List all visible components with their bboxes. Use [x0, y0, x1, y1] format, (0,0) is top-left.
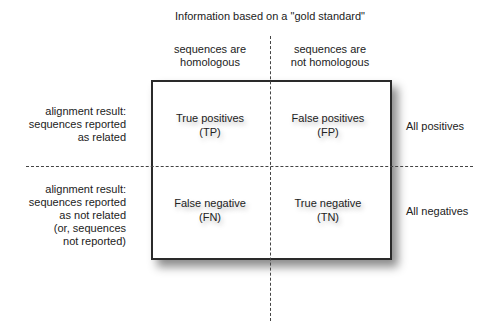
row-label-line: as not related	[0, 209, 126, 222]
row-label-line: not reported)	[0, 235, 126, 248]
column-header-homologous: sequences are homologous	[150, 43, 270, 69]
cell-false-negative: False negative (FN)	[155, 196, 265, 224]
row-label-line: sequences reported	[0, 196, 126, 209]
cell-label: False positives	[273, 111, 383, 125]
horizontal-dashed-divider	[26, 166, 473, 167]
diagram-title: Information based on a "gold standard"	[0, 10, 492, 23]
column-header-line: not homologous	[270, 56, 390, 69]
row-label-line: (or, sequences	[0, 222, 126, 235]
row-label-line: as related	[0, 131, 126, 144]
row-label-reported-related: alignment result: sequences reported as …	[0, 105, 126, 144]
cell-true-negative: True negative (TN)	[273, 196, 383, 224]
row-label-line: sequences reported	[0, 118, 126, 131]
side-label-all-negatives: All negatives	[406, 205, 468, 218]
column-header-not-homologous: sequences are not homologous	[270, 43, 390, 69]
side-label-all-positives: All positives	[406, 120, 464, 133]
row-label-line: alignment result:	[0, 105, 126, 118]
cell-label: False negative	[155, 196, 265, 210]
cell-abbr: (FP)	[273, 125, 383, 139]
cell-false-positives: False positives (FP)	[273, 111, 383, 139]
cell-true-positives: True positives (TP)	[155, 111, 265, 139]
cell-abbr: (TP)	[155, 125, 265, 139]
cell-label: True positives	[155, 111, 265, 125]
row-label-reported-not-related: alignment result: sequences reported as …	[0, 183, 126, 248]
column-header-line: sequences are	[150, 43, 270, 56]
cell-abbr: (TN)	[273, 210, 383, 224]
vertical-dashed-divider	[270, 36, 271, 321]
row-label-line: alignment result:	[0, 183, 126, 196]
cell-label: True negative	[273, 196, 383, 210]
matrix-box	[151, 80, 392, 260]
column-header-line: homologous	[150, 56, 270, 69]
cell-abbr: (FN)	[155, 210, 265, 224]
column-header-line: sequences are	[270, 43, 390, 56]
